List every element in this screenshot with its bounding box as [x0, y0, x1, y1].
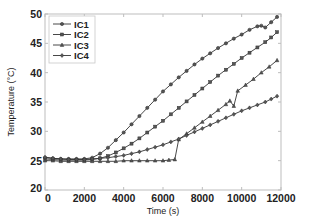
y-tick-label: 50 [30, 8, 42, 20]
y-tick-label: 30 [30, 125, 42, 137]
y-tick-label: 40 [30, 67, 42, 79]
x-tick-label: 12000 [266, 192, 295, 204]
y-tick-label: 20 [30, 182, 42, 194]
chart-canvas: 0200040006000800010000120002025303540455… [0, 0, 309, 222]
y-axis-label: Temperature (°C) [6, 67, 16, 136]
legend-label: IC3 [74, 40, 89, 51]
x-tick-label: 6000 [151, 192, 175, 204]
x-tick-label: 2000 [73, 192, 97, 204]
x-tick-label: 0 [45, 192, 51, 204]
y-tick-label: 35 [30, 96, 42, 108]
x-tick-label: 4000 [112, 192, 136, 204]
y-tick-label: 25 [30, 155, 42, 167]
legend-label: IC2 [74, 29, 89, 40]
line-chart: 0200040006000800010000120002025303540455… [0, 0, 309, 222]
legend-label: IC4 [74, 50, 90, 61]
legend-label: IC1 [74, 19, 90, 30]
y-tick-label: 45 [30, 37, 42, 49]
legend: IC1IC2IC3IC4 [49, 16, 95, 63]
x-tick-label: 8000 [191, 192, 215, 204]
x-tick-label: 10000 [227, 192, 256, 204]
x-axis-label: Time (s) [147, 206, 180, 216]
